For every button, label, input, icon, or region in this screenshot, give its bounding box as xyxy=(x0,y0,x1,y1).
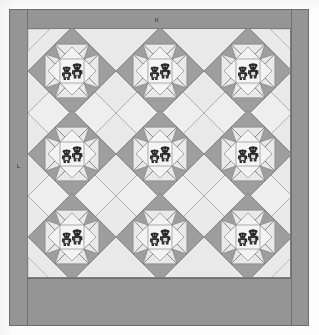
border-label-L: L xyxy=(17,163,21,169)
seam-bottom-horizontal xyxy=(27,278,292,279)
quilt-piecing-svg xyxy=(28,29,291,278)
quilt-inner-field xyxy=(27,28,291,278)
quilt-diagram-canvas: K L xyxy=(0,0,319,335)
border-label-K: K xyxy=(155,17,159,23)
